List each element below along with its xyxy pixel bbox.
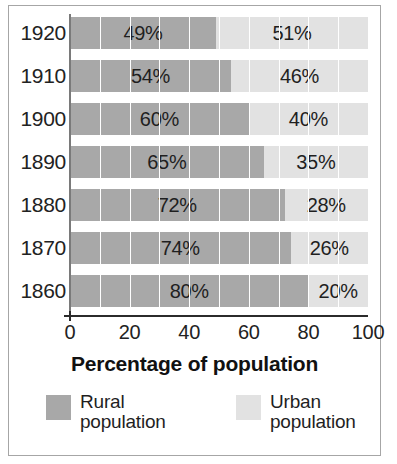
plot-area: 49%51%54%46%60%40%65%35%72%28%74%26%80%2… <box>70 14 368 314</box>
bar-segment-rural: 54% <box>70 60 231 92</box>
x-tick-label-40: 40 <box>159 322 219 342</box>
x-axis-title: Percentage of population <box>8 352 381 376</box>
gridline-50 <box>219 14 220 314</box>
x-tick-label-60: 60 <box>219 322 279 342</box>
gridline-70 <box>279 14 280 314</box>
bar-value-label-rural: 49% <box>70 17 216 49</box>
legend-item-rural: Rural population <box>46 392 166 432</box>
gridline-10 <box>100 14 101 314</box>
bar-segment-rural: 74% <box>70 232 291 264</box>
gridline-60 <box>249 14 250 314</box>
x-tick-label-100: 100 <box>338 322 397 342</box>
legend-label-urban-line1: Urban <box>270 392 356 412</box>
x-tick-label-0: 0 <box>40 322 100 342</box>
x-axis-origin-tick <box>69 311 71 321</box>
figure-root: 1920191019001890188018701860 49%51%54%46… <box>0 0 397 464</box>
gridline-20 <box>130 14 131 314</box>
x-tick-label-20: 20 <box>100 322 160 342</box>
bar-segment-urban: 51% <box>216 17 368 49</box>
legend-label-rural-line2: population <box>80 412 166 432</box>
gridline-80 <box>308 14 309 314</box>
gridline-30 <box>159 14 160 314</box>
x-axis-line <box>64 315 368 317</box>
bar-segment-urban: 46% <box>231 60 368 92</box>
legend-swatch-urban-icon <box>236 395 261 420</box>
bar-value-label-urban: 51% <box>216 17 368 49</box>
category-label-1920: 1920 <box>14 22 66 43</box>
bar-value-label-urban: 26% <box>291 232 368 264</box>
category-label-1910: 1910 <box>14 65 66 86</box>
x-tick-label-80: 80 <box>278 322 338 342</box>
bar-value-label-rural: 72% <box>70 189 285 221</box>
bar-value-label-rural: 54% <box>70 60 231 92</box>
bar-segment-rural: 49% <box>70 17 216 49</box>
category-label-1860: 1860 <box>14 280 66 301</box>
bar-segment-urban: 28% <box>285 189 368 221</box>
bar-segment-rural: 72% <box>70 189 285 221</box>
gridline-40 <box>189 14 190 314</box>
category-label-1870: 1870 <box>14 237 66 258</box>
legend-label-urban-line2: population <box>270 412 356 432</box>
category-label-1900: 1900 <box>14 108 66 129</box>
bar-value-label-urban: 28% <box>285 189 368 221</box>
chart-legend: Rural population Urban population <box>8 392 381 452</box>
legend-label-rural: Rural population <box>80 392 166 432</box>
legend-item-urban: Urban population <box>236 392 356 432</box>
category-label-1890: 1890 <box>14 151 66 172</box>
bar-value-label-urban: 46% <box>231 60 368 92</box>
y-axis-line <box>69 14 71 316</box>
bar-value-label-rural: 74% <box>70 232 291 264</box>
category-label-1880: 1880 <box>14 194 66 215</box>
gridline-90 <box>338 14 339 314</box>
legend-swatch-rural-icon <box>46 395 71 420</box>
legend-label-urban: Urban population <box>270 392 356 432</box>
bar-segment-urban: 26% <box>291 232 368 264</box>
legend-label-rural-line1: Rural <box>80 392 166 412</box>
stacked-bar-chart: 1920191019001890188018701860 49%51%54%46… <box>0 0 397 464</box>
